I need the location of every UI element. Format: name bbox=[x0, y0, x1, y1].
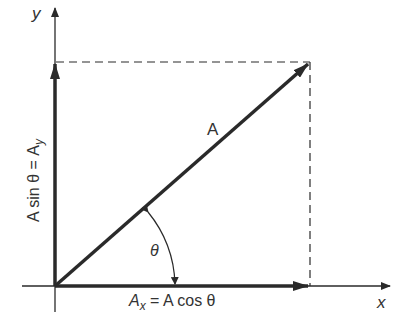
vector-components-diagram: y x A θ Ax = A cos θ A sin θ = Ay bbox=[0, 0, 411, 336]
x-component-label: Ax = A cos θ bbox=[128, 292, 216, 313]
angle-theta-label: θ bbox=[150, 242, 159, 259]
vector-a-label: A bbox=[207, 120, 219, 139]
y-axis-label: y bbox=[31, 4, 42, 23]
vector-a bbox=[55, 64, 308, 286]
x-axis-label: x bbox=[376, 293, 386, 312]
y-component-label: A sin θ = Ay bbox=[25, 138, 46, 222]
